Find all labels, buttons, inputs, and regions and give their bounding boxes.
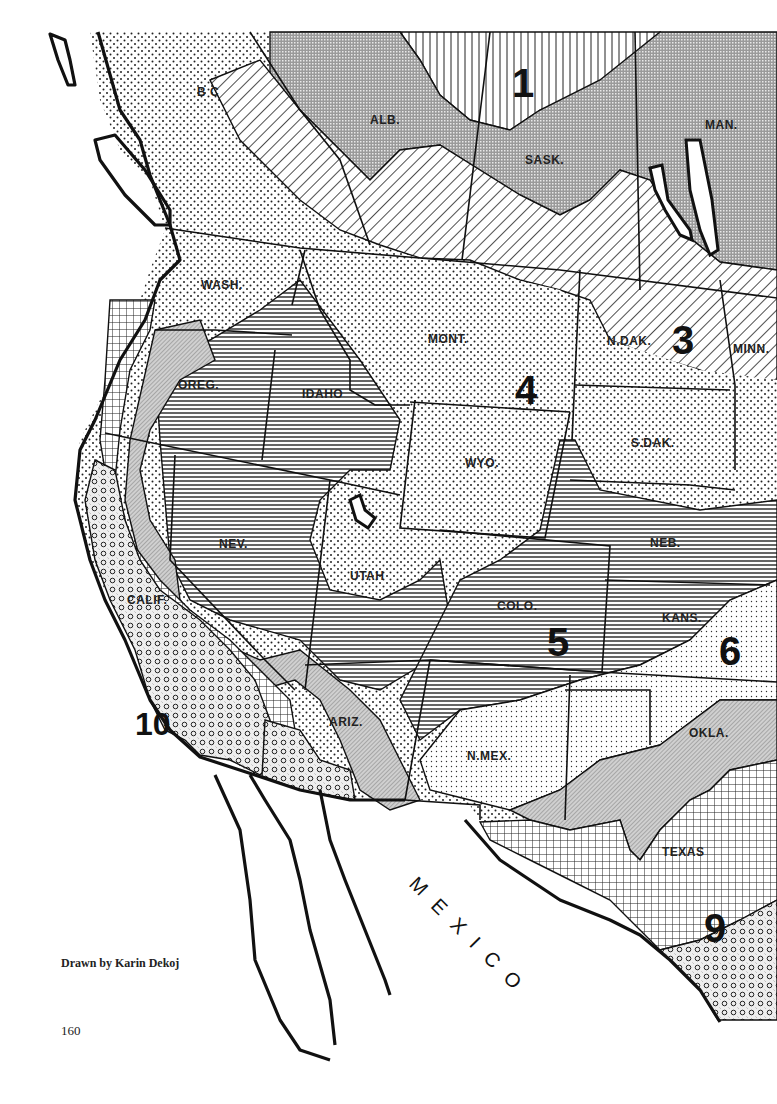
- gulf-california-west: [250, 775, 335, 1045]
- label-mexico: MEXICO: [405, 872, 536, 1003]
- label-idaho: IDAHO: [302, 387, 343, 401]
- zone-number-5: 5: [547, 620, 569, 664]
- label-okla: OKLA.: [689, 726, 729, 740]
- zone-number-4: 4: [515, 368, 538, 412]
- label-ndak: N.DAK.: [607, 334, 651, 348]
- label-sdak: S.DAK.: [631, 436, 675, 450]
- label-man: MAN.: [705, 118, 738, 132]
- label-nev: NEV.: [219, 537, 248, 551]
- label-kans: KANS.: [662, 611, 702, 625]
- label-calif: CALIF.: [127, 593, 167, 607]
- label-sask: SASK.: [525, 153, 564, 167]
- label-bc: B C: [197, 85, 219, 99]
- haida-gwaii: [50, 34, 75, 85]
- zone-number-3: 3: [672, 318, 694, 362]
- label-minn: MINN.: [733, 342, 770, 356]
- baja-west-coast: [215, 775, 330, 1060]
- zone-map: 1 3 4 5 6 9 10 B C ALB. SASK. MAN. WASH.…: [0, 0, 777, 1104]
- label-colo: COLO.: [497, 599, 538, 613]
- label-utah: UTAH: [350, 569, 384, 583]
- label-texas: TEXAS: [662, 845, 705, 859]
- label-wash: WASH.: [201, 278, 243, 292]
- label-wyo: WYO.: [465, 456, 499, 470]
- gulf-california-east: [320, 790, 390, 995]
- page-number: 160: [61, 1023, 81, 1039]
- label-nmex: N.MEX.: [467, 749, 511, 763]
- label-ariz: ARIZ.: [329, 715, 363, 729]
- map-credit: Drawn by Karin Dekoj: [61, 956, 179, 971]
- label-mont: MONT.: [428, 332, 468, 346]
- label-alb: ALB.: [370, 113, 400, 127]
- zone-number-6: 6: [719, 629, 741, 673]
- label-neb: NEB.: [650, 536, 681, 550]
- zone-number-9: 9: [704, 906, 726, 950]
- label-oreg: OREG.: [178, 378, 219, 392]
- zone-number-10: 10: [135, 706, 171, 742]
- zone-number-1: 1: [512, 61, 534, 105]
